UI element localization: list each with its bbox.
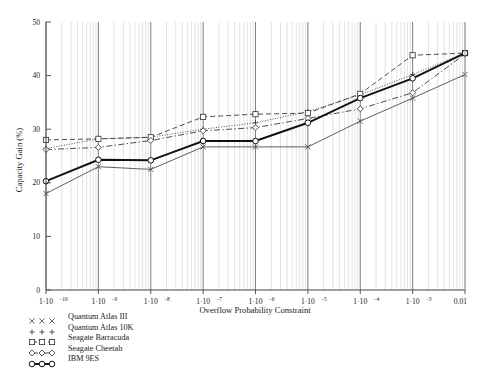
- svg-text:−9: −9: [112, 296, 118, 302]
- minor-gridlines: [62, 22, 463, 290]
- y-axis-title: Capacity Gain (%): [14, 128, 24, 193]
- svg-text:−6: −6: [269, 296, 275, 302]
- y-tick-label: 20: [32, 178, 40, 187]
- legend-item[interactable]: Seagate Barracuda: [26, 333, 276, 344]
- svg-text:−5: −5: [321, 296, 327, 302]
- svg-text:1·10: 1·10: [406, 297, 420, 306]
- legend-item-label: Quantum Atlas 10K: [60, 323, 134, 334]
- legend-item-label: IBM 9ES: [60, 354, 99, 365]
- y-tick-labels: 01020304050: [32, 18, 51, 295]
- svg-text:1·10: 1·10: [144, 297, 158, 306]
- svg-text:1·10: 1·10: [91, 297, 105, 306]
- legend-marker-diamond-icon: [26, 344, 60, 354]
- figure-container: 01020304050 1·10−101·10−91·10−81·10−71·1…: [0, 0, 496, 386]
- y-tick-label: 10: [32, 232, 40, 241]
- svg-text:−8: −8: [164, 296, 170, 302]
- legend-item[interactable]: Seagate Cheetah: [26, 344, 276, 355]
- legend-marker-square-icon: [26, 333, 60, 343]
- legend-marker-x-icon: [26, 312, 60, 322]
- legend-item-label: Seagate Barracuda: [60, 333, 129, 344]
- legend-item[interactable]: Quantum Atlas 10K: [26, 323, 276, 334]
- y-tick-label: 30: [32, 125, 40, 134]
- x-tick-label: 1·10−8: [144, 296, 170, 307]
- svg-text:1·10: 1·10: [39, 297, 53, 306]
- svg-text:−3: −3: [426, 296, 432, 302]
- legend-marker-circle-icon: [26, 355, 60, 365]
- x-tick-label: 1·10−4: [353, 296, 379, 307]
- legend-item[interactable]: IBM 9ES: [26, 354, 276, 365]
- x-tick-label: 0.01: [454, 297, 467, 306]
- svg-text:0.01: 0.01: [454, 297, 467, 306]
- chart-legend: Quantum Atlas IIIQuantum Atlas 10KSeagat…: [26, 312, 276, 365]
- x-tick-label: 1·10−9: [91, 296, 117, 307]
- svg-text:−10: −10: [59, 296, 68, 302]
- svg-text:1·10: 1·10: [353, 297, 367, 306]
- legend-item[interactable]: Quantum Atlas III: [26, 312, 276, 323]
- x-tick-label: 1·10−10: [39, 296, 68, 307]
- legend-item-label: Seagate Cheetah: [60, 344, 122, 355]
- svg-text:−4: −4: [373, 296, 379, 302]
- svg-text:−7: −7: [216, 296, 222, 302]
- x-tick-label: 1·10−3: [406, 296, 432, 307]
- major-gridlines: [46, 22, 465, 294]
- legend-item-label: Quantum Atlas III: [60, 312, 128, 323]
- y-tick-label: 50: [32, 18, 40, 27]
- legend-marker-+-icon: [26, 323, 60, 333]
- y-tick-label: 40: [32, 71, 40, 80]
- y-tick-label: 0: [36, 286, 40, 295]
